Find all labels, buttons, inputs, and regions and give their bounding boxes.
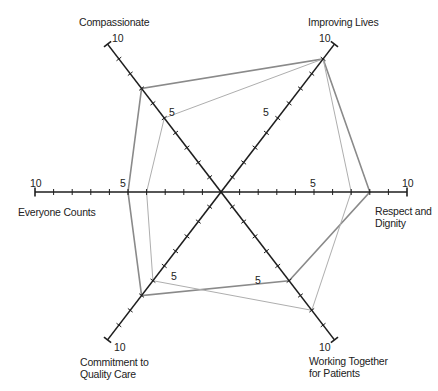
axis-label-line: Quality Care [80, 368, 149, 380]
series-polygon-1 [128, 59, 370, 296]
axis-label-line: for Patients [309, 367, 388, 379]
axis-label-line: Working Together [309, 355, 388, 367]
axis-label-compassionate: Compassionate [79, 16, 149, 28]
axis-layer [35, 41, 407, 342]
tick-label: 10 [114, 341, 126, 353]
axis-tick [331, 337, 338, 342]
tick-label: 10 [319, 341, 331, 353]
radar-chart: 105105105105105105 [0, 0, 438, 391]
series-layer [128, 59, 370, 310]
axis-label-everyone-counts: Everyone Counts [18, 206, 96, 218]
tick-label: 5 [120, 177, 126, 189]
axis-label-improving-lives: Improving Lives [308, 16, 379, 28]
tick-label: 10 [319, 32, 331, 44]
tick-label: 5 [255, 274, 261, 286]
axis-tick [104, 337, 111, 342]
tick-label: 10 [30, 177, 42, 189]
tick-label: 5 [171, 270, 177, 282]
axis-tick [331, 41, 338, 46]
axis-label-line: Commitment to [80, 356, 149, 368]
tick-label: 10 [402, 177, 414, 189]
tick-label: 10 [112, 32, 124, 44]
axis-label-commitment-to-quality-care: Commitment to Quality Care [80, 356, 149, 380]
axis-label-working-together: Working Together for Patients [309, 355, 388, 379]
tick-label: 5 [310, 177, 316, 189]
axis-label-line: Dignity [375, 217, 432, 229]
tick-label: 5 [263, 106, 269, 118]
series-polygon-2 [147, 59, 352, 310]
axis-label-line: Respect and [375, 205, 432, 217]
axis-tick [104, 41, 111, 46]
tick-label: 5 [169, 106, 175, 118]
axis-label-respect-and-dignity: Respect and Dignity [375, 205, 432, 229]
